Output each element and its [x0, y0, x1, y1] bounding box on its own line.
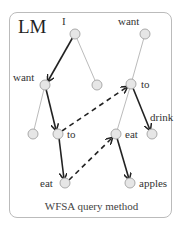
path-edges [46, 37, 150, 179]
nodes [28, 29, 157, 188]
label-eat-bottom: eat [40, 178, 53, 189]
label-want-right: want [118, 16, 139, 27]
label-to-right: to [141, 79, 150, 90]
label-i: I [62, 16, 66, 27]
label-to-mid: to [67, 129, 76, 140]
label-want-left: want [13, 72, 34, 83]
label-apples: apples [139, 178, 167, 189]
label-eat-mid: eat [125, 129, 138, 140]
label-drink: drink [150, 112, 173, 123]
caption: WFSA query method [0, 200, 183, 212]
